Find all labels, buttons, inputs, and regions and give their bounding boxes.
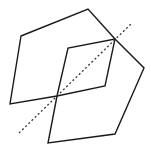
geometry-figure — [0, 0, 151, 150]
figure-background — [0, 0, 151, 150]
